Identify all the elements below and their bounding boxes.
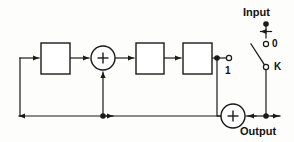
output-label: Output xyxy=(240,126,276,137)
terminal-one-circle[interactable] xyxy=(226,55,231,60)
block-2 xyxy=(136,43,164,74)
input-label: Input xyxy=(243,7,270,18)
terminal-zero-circle[interactable] xyxy=(263,41,268,46)
terminal-k-circle[interactable] xyxy=(263,64,268,69)
terminal-one-label: 1 xyxy=(225,66,231,76)
junction-upper-right-dot xyxy=(214,55,220,61)
block-1 xyxy=(41,43,70,74)
adder-top-group xyxy=(91,46,115,70)
terminal-zero-label: 0 xyxy=(272,39,278,49)
diagram-canvas xyxy=(0,0,294,142)
terminal-k-label: K xyxy=(274,62,281,72)
block-diagram: Input Output 0 K 1 xyxy=(0,0,294,142)
terminal-input-dot xyxy=(263,21,269,27)
junction-output-dot xyxy=(263,113,269,119)
block-3 xyxy=(183,43,212,74)
junction-feedback-tap-dot xyxy=(100,113,106,119)
switch-blade[interactable] xyxy=(251,44,264,64)
